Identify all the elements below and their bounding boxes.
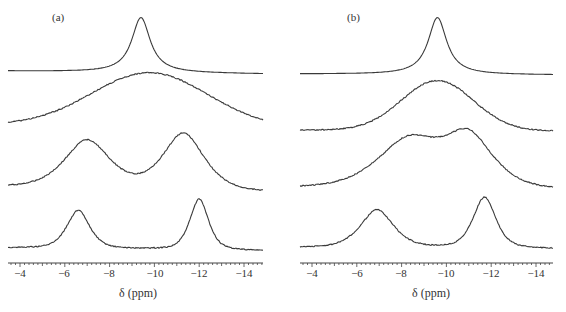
spectrum-trace (8, 199, 263, 251)
panel-b: (b) −4 −6 −8 −10 −12 −14 δ (ppm) (283, 0, 566, 312)
spectra-plot-b (283, 0, 566, 312)
tick-label: −12 (482, 267, 499, 279)
tick-label: −10 (146, 267, 163, 279)
spectrum-trace (8, 72, 263, 122)
x-axis-label-b: δ (ppm) (412, 286, 450, 301)
tick-label: −14 (527, 267, 544, 279)
tick-label: −6 (58, 267, 70, 279)
spectrum-trace (300, 81, 553, 132)
tick-label: −12 (190, 267, 207, 279)
spectrum-trace (300, 128, 553, 187)
tick-label: −10 (437, 267, 454, 279)
spectrum-trace (300, 197, 553, 249)
panel-a: (a) −4 −6 −8 −10 −12 −14 δ (ppm) (0, 0, 283, 312)
spectra-plot-a (0, 0, 283, 312)
spectrum-trace (8, 18, 263, 74)
x-axis-label-a: δ (ppm) (119, 286, 157, 301)
spectrum-trace (8, 133, 263, 191)
tick-label: −4 (306, 267, 318, 279)
tick-label: −8 (103, 267, 115, 279)
spectrum-trace (300, 18, 553, 75)
tick-label: −6 (351, 267, 363, 279)
tick-label: −4 (14, 267, 26, 279)
tick-label: −8 (395, 267, 407, 279)
tick-label: −14 (235, 267, 252, 279)
